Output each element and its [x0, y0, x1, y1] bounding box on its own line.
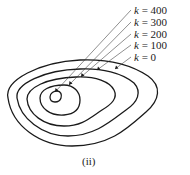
contour-diagram: k = 400 k = 300 k = 200 k = 100 k = 0 (i…	[0, 0, 190, 175]
contour-k400	[50, 91, 61, 102]
label-k300: k = 300	[134, 16, 168, 28]
label-k100: k = 100	[134, 39, 168, 51]
leader-lines	[55, 10, 131, 92]
label-k0: k = 0	[134, 51, 157, 63]
contour-k0	[8, 60, 158, 146]
label-k400: k = 400	[134, 4, 168, 16]
figure-caption: (ii)	[82, 155, 96, 168]
contour-k100	[17, 69, 138, 136]
